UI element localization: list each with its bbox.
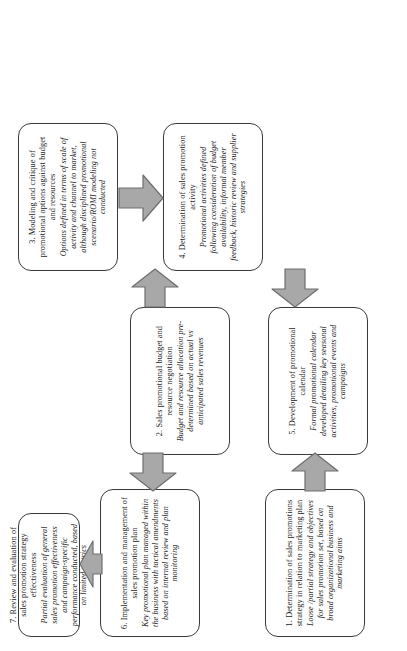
node-7-title: 7. Review and evaluation of sales promot… xyxy=(9,521,39,629)
arrow-node2-to-node3 xyxy=(132,269,178,307)
process-node-2[interactable]: 2. Sales promotional budget and resource… xyxy=(130,307,230,455)
process-node-4[interactable]: 4. Determination of sales promotion acti… xyxy=(163,123,263,271)
process-node-7[interactable]: 7. Review and evaluation of sales promot… xyxy=(18,513,80,637)
node-4-title: 4. Determination of sales promotion acti… xyxy=(178,131,198,263)
node-3-title: 3. Modeling and critique of promotional … xyxy=(28,131,58,263)
node-5-detail: Formal promotional calendar developed de… xyxy=(309,315,348,447)
node-5-title: 5. Development of promotional calendar xyxy=(288,315,308,447)
process-node-5[interactable]: 5. Development of promotional calendar F… xyxy=(268,307,368,455)
node-6-detail: Key promotional plan managed within the … xyxy=(141,497,180,629)
arrow-node1-to-node2 xyxy=(292,453,338,491)
arrow-node5-to-node6 xyxy=(130,453,176,491)
process-node-3[interactable]: 3. Modeling and critique of promotional … xyxy=(18,123,118,271)
node-4-detail: Promotional activities defined following… xyxy=(199,131,248,263)
node-2-detail: Budget and resource allocation pre-deter… xyxy=(176,315,206,447)
node-6-title: 6. Implementation and management of sale… xyxy=(120,497,140,629)
node-3-detail: Options defined in terms of scale of act… xyxy=(59,131,108,263)
process-node-6[interactable]: 6. Implementation and management of sale… xyxy=(100,489,200,637)
arrow-node3-to-node4 xyxy=(119,175,163,221)
node-1-detail: Loose /partial strategy and objectives f… xyxy=(306,497,345,629)
arrow-node4-to-node5 xyxy=(272,269,318,307)
node-2-title: 2. Sales promotional budget and resource… xyxy=(155,315,175,447)
process-node-1[interactable]: 1. Determination of sales promotions str… xyxy=(265,489,365,637)
arrow-node6-to-node7 xyxy=(80,541,102,587)
flowchart-canvas: 1. Determination of sales promotions str… xyxy=(0,0,407,651)
node-1-title: 1. Determination of sales promotions str… xyxy=(285,497,305,629)
